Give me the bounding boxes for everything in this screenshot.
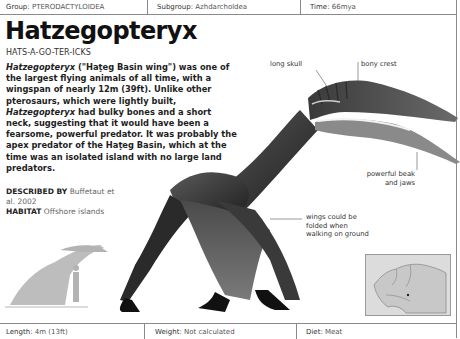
footer-strip: Length: 4m (13ft) Weight: Not calculated… [0, 323, 457, 339]
page-title: Hatzegopteryx [5, 16, 197, 46]
europe-locator-map [365, 254, 451, 316]
described-by: DESCRIBED BY Buffetaut et al. 2002 [6, 187, 116, 207]
weight-cell: Weight: Not calculated [155, 326, 235, 338]
species-name-italic: Hatzegopteryx [6, 62, 75, 72]
metadata-block: DESCRIBED BY Buffetaut et al. 2002 HABIT… [6, 187, 116, 217]
species-name-italic-2: Hatzegopteryx [6, 107, 75, 117]
weight-label: Weight: [155, 328, 182, 336]
scale-silhouette [5, 245, 108, 307]
annotation-beak: powerful beak and jaws [358, 170, 415, 187]
habitat: HABITAT Offshore islands [6, 207, 116, 217]
annotation-long-skull: long skull [270, 60, 302, 69]
footer-divider [296, 324, 297, 339]
pronunciation: HATS-A-GO-TER-ICKS [6, 48, 91, 57]
map-icon [366, 255, 450, 315]
length-value: 4m (13ft) [35, 328, 68, 336]
description-paragraph: Hatzegopteryx ("Haţeg Basin wing") was o… [6, 62, 238, 174]
length-cell: Length: 4m (13ft) [6, 326, 68, 338]
length-label: Length: [6, 328, 33, 336]
annotation-bony-crest: bony crest [361, 60, 397, 69]
diet-cell: Diet: Meat [306, 326, 342, 338]
habitat-label: HABITAT [6, 207, 41, 216]
diet-label: Diet: [306, 328, 323, 336]
diet-value: Meat [325, 328, 342, 336]
described-by-label: DESCRIBED BY [6, 187, 67, 196]
weight-value: Not calculated [184, 328, 235, 336]
footer-divider [144, 324, 145, 339]
habitat-value: Offshore islands [44, 207, 104, 216]
annotation-wings: wings could be folded when walking on gr… [306, 213, 372, 239]
